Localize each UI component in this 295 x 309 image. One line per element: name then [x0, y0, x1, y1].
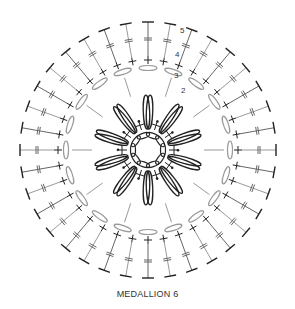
round-label-5: 5 [180, 26, 184, 35]
round-label-3: 3 [174, 71, 178, 80]
round-label-2: 2 [181, 86, 185, 95]
round-label-4: 4 [175, 50, 179, 59]
chart-caption: MEDALLION 6 [0, 289, 295, 299]
crochet-chart [0, 0, 295, 290]
